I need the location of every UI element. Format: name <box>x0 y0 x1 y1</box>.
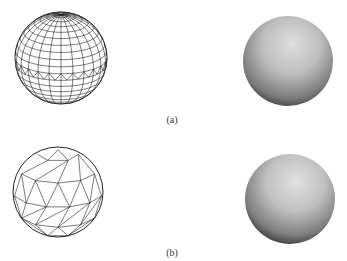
shaded-sphere-b <box>245 154 335 244</box>
triangulated-sphere-wireframe <box>13 147 103 237</box>
shaded-sphere-a <box>243 16 333 106</box>
panel-label-b: (b) <box>157 247 187 258</box>
panel-label-a: (a) <box>157 114 187 125</box>
figure-canvas <box>0 0 347 261</box>
uv-sphere-wireframe <box>15 12 107 104</box>
